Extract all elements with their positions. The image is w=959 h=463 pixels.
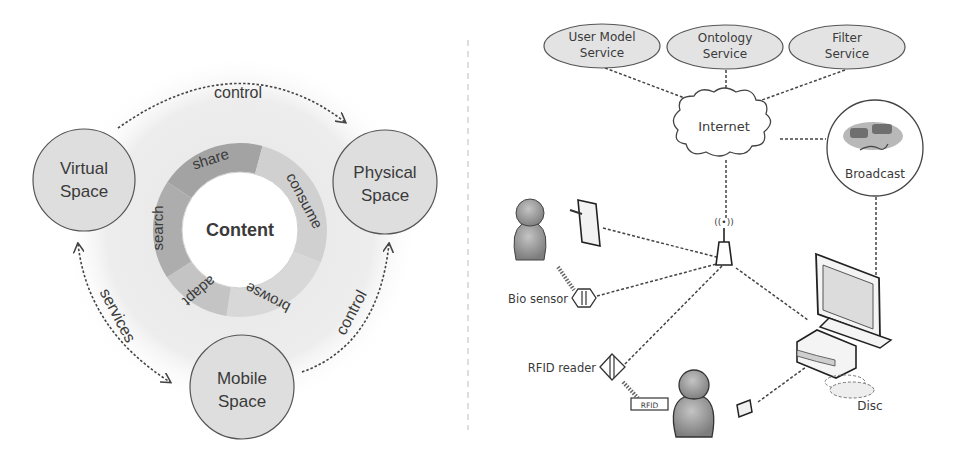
svg-text:Space: Space <box>218 392 266 411</box>
node-filter-service: Filter Service <box>789 25 905 69</box>
svg-text:Service: Service <box>825 47 869 61</box>
svg-text:User Model: User Model <box>568 30 635 44</box>
figure-canvas: control services control share consume b… <box>0 0 959 463</box>
edge-label-control-top: control <box>214 84 262 101</box>
svg-text:Service: Service <box>703 47 747 61</box>
tablet-device-icon <box>570 200 600 246</box>
user-person-icon-2 <box>673 370 713 437</box>
broadcast-satellite-icon <box>843 122 903 150</box>
node-user-model-service: User Model Service <box>544 24 660 68</box>
wireless-access-point-icon: ((•)) <box>714 217 733 265</box>
center-label-content: Content <box>206 220 274 240</box>
svg-text:Space: Space <box>60 182 108 201</box>
rfid-tag-icon: RFID <box>631 398 668 410</box>
right-diagram: User Model Service Ontology Service Filt… <box>508 24 923 437</box>
desktop-computer-icon <box>797 254 891 378</box>
disc-label: Disc <box>857 399 882 413</box>
svg-text:Internet: Internet <box>698 119 750 134</box>
svg-text:Service: Service <box>580 46 624 60</box>
usb-device-icon <box>737 400 752 417</box>
svg-text:Space: Space <box>361 186 409 205</box>
bio-sensor-wireless-link <box>558 267 574 290</box>
rfid-reader-icon <box>600 354 625 380</box>
rfid-reader-label: RFID reader <box>528 361 596 375</box>
rfid-wireless-link <box>623 382 638 398</box>
node-physical-space: Physical Space <box>333 130 437 234</box>
node-mobile-space: Mobile Space <box>190 335 294 439</box>
bio-sensor-label: Bio sensor <box>508 292 568 306</box>
node-ontology-service: Ontology Service <box>667 25 783 69</box>
svg-text:Filter: Filter <box>832 31 862 45</box>
svg-text:Mobile: Mobile <box>217 369 267 388</box>
user-person-icon <box>514 199 546 260</box>
internet-cloud-icon: Internet <box>673 88 770 156</box>
node-virtual-space: Virtual Space <box>33 129 135 231</box>
left-diagram: control services control share consume b… <box>33 54 437 439</box>
svg-text:Virtual: Virtual <box>60 159 108 178</box>
svg-text:Broadcast: Broadcast <box>845 167 905 181</box>
disc-icon <box>825 375 874 398</box>
ring-label-search: search <box>149 205 166 250</box>
svg-text:RFID: RFID <box>641 401 659 410</box>
node-broadcast: Broadcast <box>827 100 923 196</box>
svg-text:Ontology: Ontology <box>698 31 753 45</box>
svg-text:((•)): ((•)) <box>714 217 733 227</box>
bio-sensor-icon <box>572 289 596 307</box>
svg-text:Physical: Physical <box>353 163 416 182</box>
